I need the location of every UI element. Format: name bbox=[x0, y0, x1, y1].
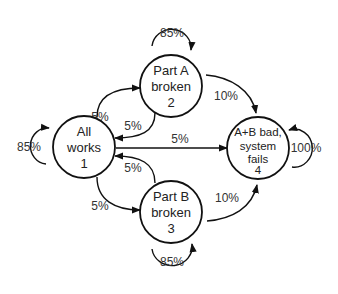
edge-label-n2-self: 85% bbox=[160, 26, 184, 40]
edge-n1-to-n4: 5% bbox=[116, 132, 227, 148]
self-loop-node-1: 85% bbox=[17, 128, 49, 164]
edge-label-n1-to-n4: 5% bbox=[171, 132, 189, 146]
edge-label-n2-to-n4: 10% bbox=[214, 89, 238, 103]
edge-n2-to-n1: 5% bbox=[115, 113, 155, 138]
markov-diagram: 85% 85% 85% 100% 5% 5% 5% 5% 5% 10% 10% bbox=[0, 0, 338, 294]
self-loop-node-3: 85% bbox=[152, 244, 192, 269]
edge-label-n1-to-n3: 5% bbox=[91, 199, 109, 213]
edge-label-n1-self: 85% bbox=[17, 140, 41, 154]
edge-label-n3-to-n1: 5% bbox=[124, 161, 142, 175]
edge-n3-to-n4: 10% bbox=[207, 185, 257, 221]
edge-label-n4-self: 100% bbox=[291, 141, 322, 155]
edge-label-n3-to-n4: 10% bbox=[215, 191, 239, 205]
node-2-line-1: Part A bbox=[153, 63, 189, 78]
edge-label-n2-to-n1: 5% bbox=[124, 119, 142, 133]
self-loop-node-2: 85% bbox=[152, 26, 191, 50]
node-3-line-3: 3 bbox=[167, 221, 174, 236]
node-4-line-1: A+B bad, bbox=[234, 126, 282, 138]
node-1-line-2: works bbox=[66, 140, 101, 155]
node-3-line-2: broken bbox=[151, 205, 191, 220]
node-2-line-2: broken bbox=[151, 79, 191, 94]
node-4-line-4: 4 bbox=[255, 164, 262, 176]
edge-n3-to-n1: 5% bbox=[115, 156, 155, 183]
node-3-line-1: Part B bbox=[153, 189, 189, 204]
node-system-fails: A+B bad, system fails 4 bbox=[227, 117, 289, 179]
self-loop-node-4: 100% bbox=[289, 129, 322, 167]
node-part-a-broken: Part A broken 2 bbox=[140, 55, 202, 117]
node-part-b-broken: Part B broken 3 bbox=[140, 181, 202, 243]
node-1-line-3: 1 bbox=[80, 156, 87, 171]
node-all-works: All works 1 bbox=[53, 116, 115, 178]
edge-label-n3-self: 85% bbox=[160, 255, 184, 269]
node-2-line-3: 2 bbox=[167, 95, 174, 110]
node-1-line-1: All bbox=[77, 124, 92, 139]
edge-n1-to-n3: 5% bbox=[91, 177, 140, 213]
edge-n2-to-n4: 10% bbox=[206, 75, 256, 113]
node-4-line-2: system bbox=[240, 140, 276, 152]
